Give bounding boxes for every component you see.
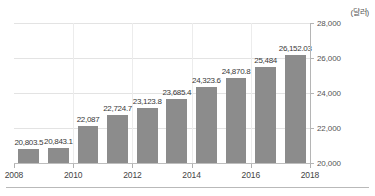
vertical-gridline-2010 <box>73 23 74 163</box>
y-axis-tick-24000 <box>310 93 314 94</box>
y-axis-tick-26000 <box>310 58 314 59</box>
x-axis-tick-2014 <box>192 164 193 168</box>
y-axis-label: 20,000 <box>317 159 341 168</box>
x-axis-tick-2012 <box>132 164 133 168</box>
x-axis-label: 2010 <box>64 170 83 180</box>
bar-value-label: 25,484 <box>254 56 277 65</box>
y-axis-label: 24,000 <box>317 89 341 98</box>
unit-label: (달러) <box>350 6 369 17</box>
bar[interactable] <box>166 99 187 163</box>
bar[interactable] <box>196 87 217 163</box>
bar-value-label: 24,323.6 <box>192 76 221 85</box>
y-axis-tick-22000 <box>310 128 314 129</box>
bar[interactable] <box>285 55 306 163</box>
x-axis-tick-2008 <box>14 164 15 168</box>
bar[interactable] <box>226 78 247 163</box>
bar-value-label: 20,843.1 <box>44 137 73 146</box>
bottom-divider <box>6 187 369 188</box>
bar-value-label: 24,870.8 <box>222 67 251 76</box>
bar-value-label: 20,803.5 <box>14 138 43 147</box>
y-axis-label: 28,000 <box>317 19 341 28</box>
bar[interactable] <box>48 148 69 163</box>
x-axis-label: 2016 <box>242 170 261 180</box>
x-axis-label: 2012 <box>123 170 142 180</box>
gridline-28000 <box>14 23 310 24</box>
vertical-gridline-2012 <box>132 23 133 163</box>
bar[interactable] <box>78 126 99 163</box>
x-axis-label: 2008 <box>5 170 24 180</box>
vertical-gridline-2014 <box>192 23 193 163</box>
x-axis-label: 2018 <box>301 170 320 180</box>
bar[interactable] <box>18 149 39 163</box>
bar[interactable] <box>255 67 276 163</box>
y-axis-label: 26,000 <box>317 54 341 63</box>
x-axis-tick-2016 <box>251 164 252 168</box>
bar[interactable] <box>107 115 128 163</box>
x-axis-label: 2014 <box>182 170 201 180</box>
bar-value-label: 23,123.8 <box>133 97 162 106</box>
x-axis-tick-2018 <box>310 164 311 168</box>
bar-chart: (달러) 20,803.520,843.122,08722,724.723,12… <box>0 0 375 196</box>
bar-value-label: 23,685.4 <box>162 88 191 97</box>
plot-area: 20,803.520,843.122,08722,724.723,123.823… <box>14 23 310 163</box>
bar[interactable] <box>137 108 158 163</box>
bar-value-label: 22,724.7 <box>103 104 132 113</box>
gridline-20000 <box>14 163 310 164</box>
y-axis-tick-28000 <box>310 23 314 24</box>
bar-value-label: 22,087 <box>77 115 100 124</box>
bar-value-label: 26,152.03 <box>279 44 312 53</box>
vertical-gridline-2016 <box>251 23 252 163</box>
y-axis-label: 22,000 <box>317 124 341 133</box>
x-axis-tick-2010 <box>73 164 74 168</box>
